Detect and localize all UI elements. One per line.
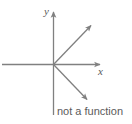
figure-container: y x not a function (0, 0, 132, 124)
x-axis-label: x (98, 66, 103, 77)
figure-caption: not a function (57, 105, 123, 118)
y-axis-label: y (44, 6, 49, 17)
ray-upper-right (54, 26, 92, 65)
ray-lower-right (54, 65, 88, 100)
